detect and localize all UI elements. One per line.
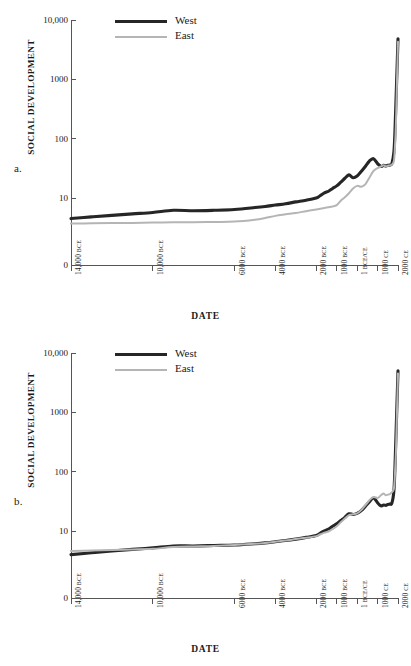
y-ticks-a: 10,0001000100100 [0, 0, 68, 333]
figure-social-development: a. SOCIAL DEVELOPMENT DATE 10,0001000100… [0, 0, 411, 666]
x-tick-label: 1000 BCE [340, 579, 349, 608]
series-line-west [71, 371, 398, 555]
x-tick-label: 10,000 BCE [156, 573, 165, 608]
x-tick-label: 1000 CE [381, 250, 390, 275]
y-tick-label: 0 [4, 260, 68, 270]
chart-panel-a: a. SOCIAL DEVELOPMENT DATE 10,0001000100… [0, 0, 411, 333]
y-tick-label: 10 [4, 526, 68, 536]
y-tick-label: 100 [4, 134, 68, 144]
legend-label: West [175, 14, 197, 26]
x-tick-label: 2000 BCE [319, 579, 328, 608]
x-tick-label: 1000 CE [381, 583, 390, 608]
series-line-east [71, 374, 398, 551]
series-line-west [71, 39, 398, 219]
legend-swatch-west-icon [115, 20, 167, 23]
chart-panel-b: b. SOCIAL DEVELOPMENT DATE 10,0001000100… [0, 333, 411, 666]
x-tick-label: 2000 CE [401, 250, 410, 275]
y-ticks-b: 10,0001000100100 [0, 333, 68, 666]
x-tick-label: 2000 CE [401, 583, 410, 608]
y-tick-label: 10,000 [4, 15, 68, 25]
x-tick-label: 10,000 BCE [156, 240, 165, 275]
x-tick-label: 14,000 BCE [74, 240, 83, 275]
x-tick-label: 6000 BCE [238, 246, 247, 275]
series-line-east [71, 42, 398, 224]
x-tick-label: 14,000 BCE [74, 573, 83, 608]
x-tick-label: 2000 BCE [319, 246, 328, 275]
legend-label: East [175, 29, 194, 41]
y-tick-label: 10 [4, 193, 68, 203]
legend-swatch-east-icon [115, 36, 167, 38]
y-tick-label: 100 [4, 467, 68, 477]
x-tick-label: 4000 BCE [278, 579, 287, 608]
legend-label: West [175, 347, 197, 359]
x-tick-label: 6000 BCE [238, 579, 247, 608]
legend-label: East [175, 362, 194, 374]
y-tick-label: 10,000 [4, 348, 68, 358]
x-tick-label: 1 BCE/CE [360, 247, 369, 275]
legend-swatch-west-icon [115, 353, 167, 356]
y-tick-label: 1000 [4, 407, 68, 417]
x-tick-label: 4000 BCE [278, 246, 287, 275]
y-tick-label: 1000 [4, 74, 68, 84]
y-tick-label: 0 [4, 593, 68, 603]
legend-swatch-east-icon [115, 369, 167, 371]
x-tick-label: 1000 BCE [340, 246, 349, 275]
x-tick-label: 1 BCE/CE [360, 580, 369, 608]
